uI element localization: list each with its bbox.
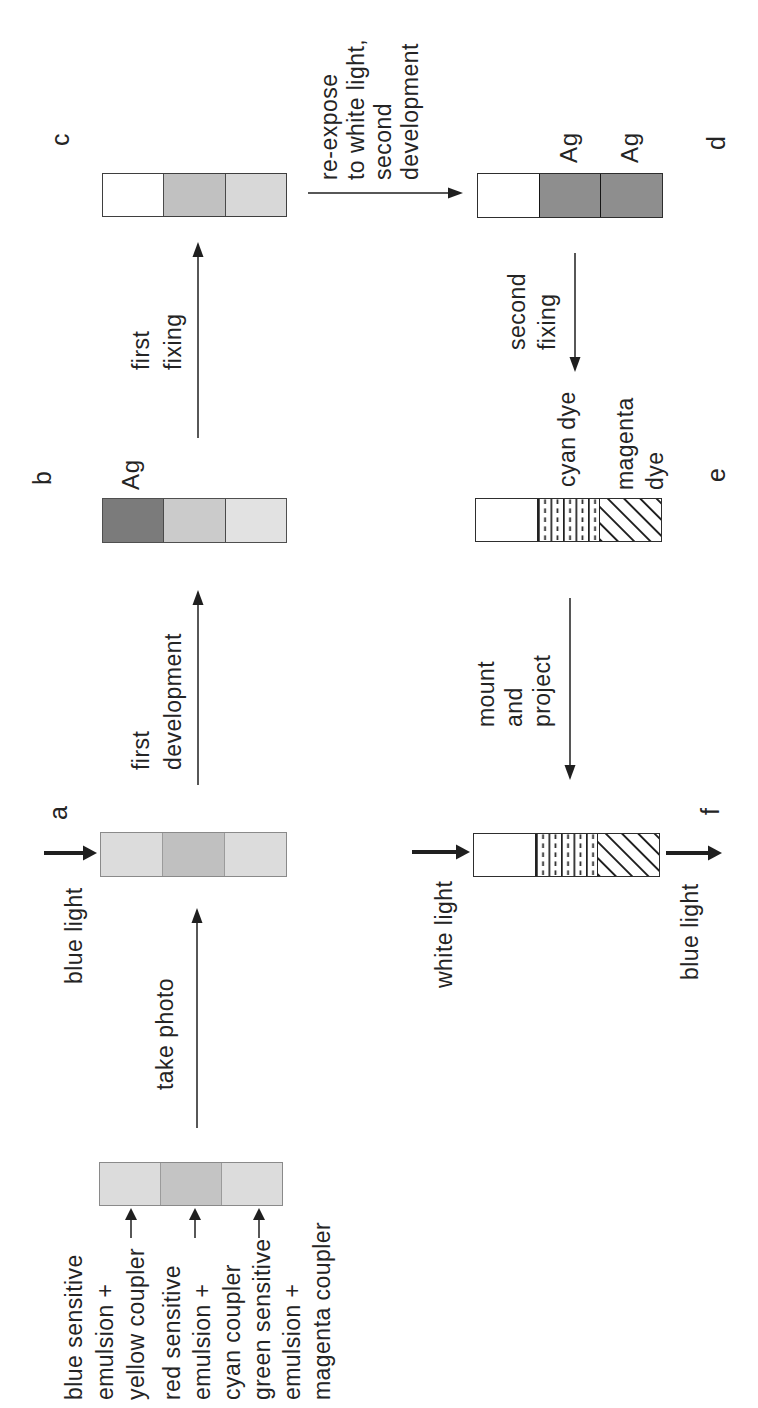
label-first-development: firstdevelopment — [125, 633, 189, 770]
label-line: first — [125, 633, 157, 770]
diagram-landscape: abcdefAgAgAgtake photofirstdevelopmentfi… — [0, 0, 758, 1408]
label-layer-green-sensitive: green sensitiveemulsion +magenta coupler — [247, 1222, 337, 1400]
stage-letter-a: a — [44, 806, 72, 820]
bar-a-segment-1 — [101, 833, 162, 876]
layer-arrow-blue — [125, 1208, 137, 1238]
bar-e-segment-1 — [476, 499, 537, 541]
silver-ag-label: Ag — [118, 459, 144, 490]
bar-c-segment-1 — [103, 174, 163, 216]
stage-letter-f: f — [696, 808, 724, 815]
bar-c-segment-3 — [225, 174, 286, 216]
label-line: blue sensitive — [59, 1248, 90, 1400]
bar-d-segment-1 — [478, 174, 539, 217]
bar-film — [99, 1162, 283, 1206]
label-line: fixing — [532, 273, 562, 350]
bar-f-cyan-dye-layer — [535, 834, 597, 876]
bar-film-segment-2 — [160, 1163, 221, 1205]
label-line: emulsion + — [187, 1264, 217, 1400]
label-second-fixing: secondfixing — [502, 273, 562, 350]
stage-letter-b: b — [28, 471, 56, 485]
label-line: take photo — [151, 978, 179, 1090]
label-layer-blue-sensitive: blue sensitiveemulsion +yellow coupler — [59, 1248, 152, 1400]
bar-b-segment-3 — [225, 499, 286, 542]
label-first-fixing: firstfixing — [125, 314, 189, 370]
first-fixing-arrow — [193, 242, 204, 438]
label-line: first — [125, 314, 157, 370]
first-development-arrow — [193, 590, 204, 785]
label-line: and — [500, 655, 528, 727]
label-line: cyan coupler — [217, 1264, 247, 1400]
stage-letter-d: d — [702, 136, 730, 150]
bar-d-segment-2 — [539, 174, 601, 217]
bar-b — [102, 498, 287, 543]
label-line: blue light — [676, 883, 704, 980]
label-line: mount — [472, 655, 500, 727]
label-line: cyan dye — [553, 391, 581, 487]
white-light-in-arrow — [412, 845, 470, 860]
figure-frame: abcdefAgAgAgtake photofirstdevelopmentfi… — [0, 0, 758, 1408]
bar-film-segment-3 — [221, 1163, 282, 1205]
label-cyan-dye: cyan dye — [553, 391, 581, 487]
bar-a-segment-2 — [162, 833, 224, 876]
label-white-light-in: white light — [430, 881, 458, 988]
blue-light-in-arrow — [44, 846, 97, 861]
layer-arrow-red — [189, 1208, 201, 1238]
bar-f-segment-1 — [474, 834, 535, 876]
label-take-photo: take photo — [151, 978, 179, 1090]
bar-d-segment-3 — [600, 174, 662, 217]
label-line: blue light — [60, 887, 88, 984]
bar-e-magenta-dye-layer — [599, 499, 661, 541]
label-line: project — [528, 655, 556, 727]
label-line: development — [397, 39, 424, 180]
label-blue-light-out: blue light — [676, 883, 704, 980]
label-line: magenta coupler — [307, 1222, 337, 1400]
blue-light-out-arrow — [666, 846, 722, 861]
label-line: yellow coupler — [121, 1248, 152, 1400]
label-line: green sensitive — [247, 1222, 277, 1400]
label-mount-and-project: mountandproject — [472, 655, 556, 727]
label-re-expose-second-develop: re-exposeto white light,seconddevelopmen… — [316, 39, 424, 180]
bar-c-segment-2 — [163, 174, 224, 216]
bar-f-magenta-dye-layer — [597, 834, 659, 876]
label-line: second — [370, 39, 397, 180]
label-line: fixing — [157, 314, 189, 370]
bar-b-segment-2 — [163, 499, 224, 542]
bar-a-segment-3 — [224, 833, 286, 876]
second-fixing-arrow — [570, 253, 581, 372]
label-line: red sensitive — [157, 1264, 187, 1400]
take-photo-arrow — [192, 908, 203, 1128]
silver-ag-label: Ag — [556, 132, 582, 163]
label-line: emulsion + — [90, 1248, 121, 1400]
bar-e-cyan-dye-layer — [537, 499, 599, 541]
label-magenta-dye: magentadye — [610, 397, 670, 490]
label-line: emulsion + — [277, 1222, 307, 1400]
label-line: to white light, — [343, 39, 370, 180]
stage-letter-c: c — [46, 134, 74, 147]
label-line: re-expose — [316, 39, 343, 180]
bar-a — [100, 832, 287, 877]
bar-b-segment-1 — [103, 499, 163, 542]
label-line: second — [502, 273, 532, 350]
bar-c — [102, 173, 287, 217]
bar-film-segment-1 — [100, 1163, 160, 1205]
label-line: development — [157, 633, 189, 770]
bar-f — [473, 833, 660, 877]
bar-d — [477, 173, 663, 218]
label-line: dye — [640, 397, 670, 490]
label-blue-light-in: blue light — [60, 887, 88, 984]
re-expose-arrow — [308, 188, 463, 199]
stage-letter-e: e — [702, 468, 730, 482]
label-line: white light — [430, 881, 458, 988]
label-layer-red-sensitive: red sensitiveemulsion +cyan coupler — [157, 1264, 247, 1400]
label-line: magenta — [610, 397, 640, 490]
silver-ag-label: Ag — [617, 132, 643, 163]
bar-e — [475, 498, 662, 542]
mount-project-arrow — [565, 598, 576, 780]
